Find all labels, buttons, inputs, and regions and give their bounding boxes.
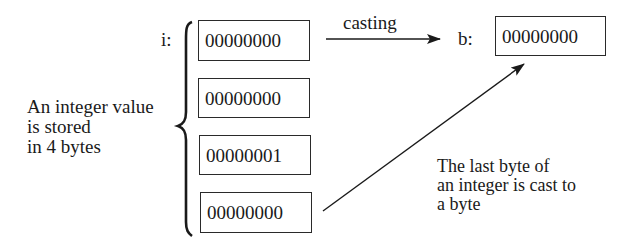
- right-note-line-1: The last byte of: [437, 157, 576, 176]
- int-byte-2: 00000000: [198, 78, 310, 118]
- variable-b-label: b:: [458, 29, 473, 48]
- byte-b-value: 00000000: [502, 27, 578, 46]
- int-byte-2-value: 00000000: [205, 89, 281, 108]
- right-note-line-2: an integer is cast to: [437, 176, 576, 195]
- int-byte-4-value: 00000000: [207, 203, 283, 222]
- casting-label: casting: [343, 13, 397, 32]
- right-note: The last byte of an integer is cast to a…: [437, 157, 576, 214]
- casting-diagram: i: 00000000 00000000 00000001 00000000 c…: [0, 0, 632, 252]
- left-note-line-1: An integer value: [27, 97, 154, 117]
- variable-i-label: i:: [161, 30, 172, 49]
- int-byte-1-value: 00000000: [205, 31, 281, 50]
- int-byte-3-value: 00000001: [206, 146, 282, 165]
- curly-brace-icon: [178, 22, 192, 236]
- int-byte-4: 00000000: [200, 192, 312, 233]
- right-note-line-3: a byte: [437, 195, 576, 214]
- left-note: An integer value is stored in 4 bytes: [27, 97, 154, 157]
- left-note-line-3: in 4 bytes: [27, 137, 154, 157]
- left-note-line-2: is stored: [27, 117, 154, 137]
- int-byte-3: 00000001: [199, 135, 311, 175]
- byte-b: 00000000: [495, 16, 606, 56]
- int-byte-1: 00000000: [198, 20, 310, 61]
